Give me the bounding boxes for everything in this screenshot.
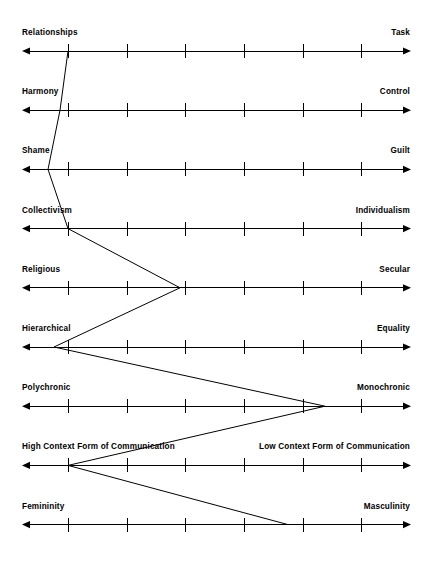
axis-label-left-1: Harmony [22, 87, 59, 97]
axis-label-left-5: Hierarchical [22, 324, 71, 334]
axis-label-left-2: Shame [22, 146, 50, 156]
axis-label-left-8: Femininity [22, 502, 64, 512]
axis-arrow-right-0 [403, 47, 411, 54]
axis-arrow-right-3 [403, 225, 411, 232]
axis-label-left-3: Collectivism [22, 206, 72, 216]
axis-arrow-left-0 [22, 47, 30, 54]
scale-axes-svg [0, 0, 433, 562]
axis-arrow-right-8 [403, 521, 411, 528]
axis-label-right-3: Individualism [356, 206, 410, 216]
axes-group [22, 44, 411, 532]
axis-arrow-left-4 [22, 284, 30, 291]
axis-label-right-6: Monochronic [357, 383, 410, 393]
axis-arrow-right-2 [403, 166, 411, 173]
axis-label-left-6: Polychronic [22, 383, 71, 393]
axis-label-right-0: Task [391, 28, 410, 38]
axis-label-right-4: Secular [379, 265, 410, 275]
axis-arrow-left-1 [22, 107, 30, 114]
axis-arrow-left-8 [22, 521, 30, 528]
axis-label-left-4: Religious [22, 265, 60, 275]
axis-label-left-7: High Context Form of Communication [22, 442, 175, 452]
axis-label-right-8: Masculinity [364, 502, 410, 512]
axis-arrow-right-6 [403, 403, 411, 410]
axis-arrow-right-5 [403, 343, 411, 350]
axis-arrow-left-6 [22, 403, 30, 410]
axis-label-right-2: Guilt [391, 146, 410, 156]
axis-arrow-left-2 [22, 166, 30, 173]
axis-label-right-5: Equality [377, 324, 410, 334]
axis-arrow-right-1 [403, 107, 411, 114]
axis-arrow-right-7 [403, 462, 411, 469]
axis-arrow-left-3 [22, 225, 30, 232]
axis-arrow-left-7 [22, 462, 30, 469]
axis-arrow-left-5 [22, 343, 30, 350]
cultural-dimensions-scale-chart: RelationshipsTaskHarmonyControlShameGuil… [0, 0, 433, 562]
axis-label-right-1: Control [380, 87, 410, 97]
axis-label-right-7: Low Context Form of Communication [259, 442, 410, 452]
axis-arrow-right-4 [403, 284, 411, 291]
axis-label-left-0: Relationships [22, 28, 78, 38]
